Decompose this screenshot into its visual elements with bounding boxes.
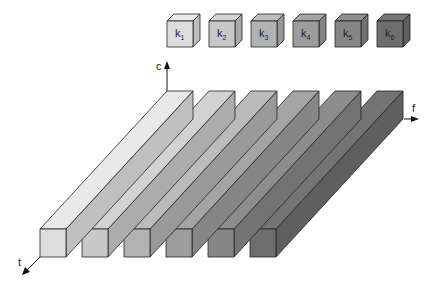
bar-front-face bbox=[40, 229, 66, 257]
f-axis-label: f bbox=[412, 102, 416, 114]
c-arrow-icon bbox=[164, 61, 170, 69]
feature-map-diagram: k1k2k3k4k5k6 c f t bbox=[0, 0, 445, 287]
t-axis-label: t bbox=[18, 256, 21, 268]
kernel-cube-2: k2 bbox=[209, 14, 242, 47]
kernel-cubes: k1k2k3k4k5k6 bbox=[167, 14, 410, 47]
filter-bars bbox=[40, 91, 403, 257]
c-axis-label: c bbox=[156, 60, 162, 72]
kernel-cube-1: k1 bbox=[167, 14, 200, 47]
t-axis bbox=[26, 257, 40, 271]
f-arrow-icon bbox=[411, 116, 419, 122]
kernel-cube-3: k3 bbox=[251, 14, 284, 47]
kernel-cube-6: k6 bbox=[377, 14, 410, 47]
kernel-cube-5: k5 bbox=[335, 14, 368, 47]
kernel-cube-4: k4 bbox=[293, 14, 326, 47]
